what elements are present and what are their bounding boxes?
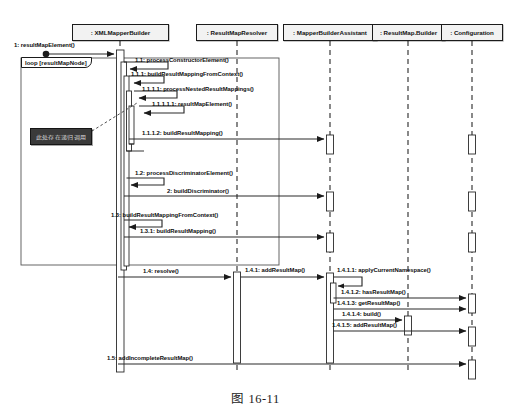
- lifeline-label: : ResultMapResolver: [207, 29, 267, 36]
- lifeline-head-configuration[interactable]: : Configuration: [441, 24, 503, 41]
- message-label-1-1-1-1: 1.1.1.1: processNestedResultMappings(): [142, 86, 254, 93]
- message-label-1-4-1-1: 1.4.1.1: applyCurrentNamespace(): [337, 267, 431, 274]
- message-label-1-4-1-2: 1.4.1.2: hasResultMap(): [341, 289, 406, 296]
- message-arrows: [43, 51, 466, 364]
- activation-rmb-1: [405, 316, 412, 335]
- activation-mba-1: [327, 135, 334, 154]
- recursion-note: 此处存在递归调用: [30, 128, 92, 145]
- activation-cfg-4: [469, 294, 476, 313]
- message-label-1-4-1-3: 1.4.1.3: getResultMap(): [337, 300, 400, 307]
- arrow-1-4-1-1: [334, 277, 363, 286]
- activation-mba-2: [327, 192, 334, 211]
- message-label-1-1-1: 1.1.1: buildResultMappingFromContext(): [131, 71, 243, 78]
- lifeline-head-resultmapbuilder[interactable]: : ResultMap.Builder: [372, 24, 445, 41]
- arrow-1-3: [124, 220, 162, 227]
- lifeline-label: : XMLMapperBuilder: [91, 29, 150, 36]
- arrow-1-2: [127, 178, 165, 185]
- message-label-1-4-1: 1.4.1: addResultMap(): [245, 267, 305, 274]
- message-label-1-4: 1.4: resolve(): [143, 268, 179, 275]
- message-label-1-4-1-5: 1.4.1.5: addResultMap(): [332, 322, 397, 329]
- activation-cfg-3: [469, 233, 476, 252]
- activation-cfg-5: [469, 327, 476, 346]
- figure-caption: 图 16-11: [0, 388, 511, 407]
- message-label-1-5: 1.5: addIncompleteResultMap(): [107, 355, 193, 362]
- activation-mba-3: [327, 233, 334, 252]
- activation-cfg-1: [469, 135, 476, 154]
- lifeline-head-xmlmapperbuilder[interactable]: : XMLMapperBuilder: [72, 24, 169, 41]
- message-label-1-1-1-2: 1.1.1.2: buildResultMapping(): [142, 130, 223, 137]
- message-label-1: 1: resultMapElement(): [14, 42, 75, 49]
- message-label-1-1: 1.1: processConstructorElement(): [135, 57, 229, 64]
- activation-cfg-6: [469, 360, 476, 379]
- lifeline-head-mapperbuilderassistant[interactable]: : MapperBuilderAssistant: [283, 24, 377, 41]
- activation-rmr-1: [234, 272, 241, 363]
- activation-cfg-2: [469, 192, 476, 211]
- activation-xmb-5: [129, 106, 134, 144]
- loop-fragment-label: loop [resultMapNode]: [21, 57, 92, 68]
- lifeline-label: : MapperBuilderAssistant: [293, 29, 367, 36]
- message-label-2: 2: buildDiscriminator(): [167, 188, 229, 195]
- lifeline-head-resultmapresolver[interactable]: : ResultMapResolver: [196, 24, 278, 41]
- recursion-note-text: 此处存在递归调用: [36, 133, 86, 141]
- lifeline-label: : ResultMap.Builder: [380, 29, 437, 36]
- message-label-1-2: 1.2: processDiscriminatorElement(): [135, 170, 233, 177]
- activation-mba-5: [331, 283, 337, 303]
- message-label-1-3: 1.3: buildResultMappingFromContext(): [111, 212, 218, 219]
- lifeline-label: : Configuration: [450, 29, 494, 36]
- sequence-diagram: : XMLMapperBuilder : ResultMapResolver :…: [0, 0, 511, 417]
- message-label-1-4-1-4: 1.4.1.4: build(): [342, 311, 381, 318]
- message-label-1-3-1: 1.3.1: buildResultMapping(): [140, 228, 216, 235]
- message-label-1-1-1-1-1: 1.1.1.1.1: resultMapElement(): [152, 101, 232, 108]
